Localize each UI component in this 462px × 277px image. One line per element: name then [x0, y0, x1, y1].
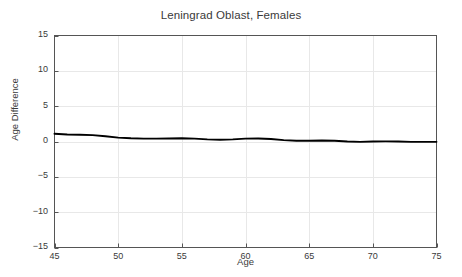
plot-area — [0, 0, 462, 277]
y-tick-label: 0 — [6, 135, 48, 145]
y-tick-label: 10 — [6, 64, 48, 74]
x-tick-label: 60 — [226, 251, 266, 261]
y-tick-label: −5 — [6, 170, 48, 180]
x-tick-label: 75 — [417, 251, 457, 261]
x-tick-label: 65 — [289, 251, 329, 261]
y-tick-label: 15 — [6, 29, 48, 39]
x-tick-label: 45 — [35, 251, 75, 261]
chart-container: Leningrad Oblast, Females Age Difference… — [0, 0, 462, 277]
data-line-0 — [55, 134, 437, 142]
x-tick-label: 70 — [353, 251, 393, 261]
data-series-group — [55, 134, 437, 142]
x-tick-label: 55 — [162, 251, 202, 261]
y-tick-label: −15 — [6, 241, 48, 251]
y-tick-label: 5 — [6, 100, 48, 110]
x-tick-label: 50 — [98, 251, 138, 261]
y-tick-label: −10 — [6, 206, 48, 216]
